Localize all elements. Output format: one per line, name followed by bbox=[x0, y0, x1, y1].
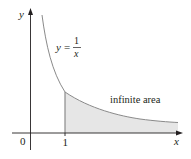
graph-canvas: y x 0 1 y = 1 x infinite area bbox=[0, 0, 191, 159]
function-label-equals: = bbox=[64, 41, 70, 53]
tick-label-1: 1 bbox=[63, 136, 69, 148]
curve-y-equals-1-over-x bbox=[42, 15, 178, 123]
region-label: infinite area bbox=[110, 94, 161, 105]
function-label-numerator: 1 bbox=[74, 35, 79, 46]
y-axis-arrow-icon bbox=[28, 8, 33, 15]
y-axis-label: y bbox=[18, 8, 24, 20]
function-label-denominator: x bbox=[73, 48, 79, 59]
function-label-lhs: y bbox=[55, 41, 61, 53]
origin-label: 0 bbox=[20, 135, 26, 147]
x-axis-label: x bbox=[173, 135, 179, 147]
